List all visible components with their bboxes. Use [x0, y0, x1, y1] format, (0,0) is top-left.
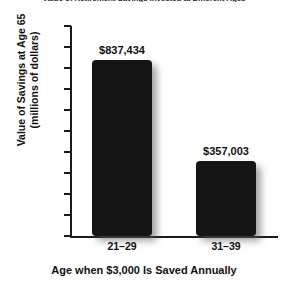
bar-value-label: $837,434 [72, 44, 172, 56]
x-axis-title: Age when $3,000 Is Saved Annually [0, 264, 288, 276]
x-tick-label: 21–29 [72, 240, 172, 252]
bar[interactable] [196, 161, 256, 236]
y-axis-title-line-1: Value of Savings at Age 65 [15, 14, 28, 147]
y-axis-title-line-2: (millions of dollars) [28, 32, 41, 129]
x-tick-label: 31–39 [176, 240, 276, 252]
bar[interactable] [92, 60, 152, 236]
y-axis-title: Value of Savings at Age 65 (millions of … [11, 0, 45, 170]
x-axis-line [70, 236, 278, 238]
plot-area: $837,434$357,003 [70, 26, 278, 236]
bar-value-label: $357,003 [176, 145, 276, 157]
bar-chart: Value of Retirement Savings Invested at … [0, 0, 288, 284]
